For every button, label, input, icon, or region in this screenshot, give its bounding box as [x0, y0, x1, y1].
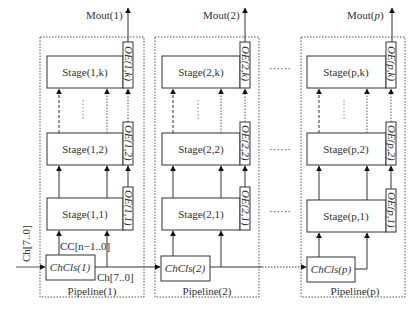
oe-1-k-label: OE(1,k)	[122, 46, 135, 81]
oe-p-1-label: OE(p,1)	[385, 192, 398, 228]
horizontal-ellipsis-2: ······	[269, 143, 291, 155]
pipeline-1: Mout(1) Stage(1,k) OE(1,k) Stage(1,2) OE…	[40, 8, 150, 298]
chcls-1-label: ChCls(1)	[50, 261, 91, 274]
horizontal-ellipsis-1: ······	[269, 205, 291, 217]
chcls-p-label: ChCls(p)	[311, 263, 352, 276]
input-label: Ch[7..0]	[20, 225, 32, 262]
mout-1-label: Mout(1)	[86, 9, 123, 22]
cc-label: CC[n−1..0]	[60, 240, 110, 252]
oe-p-k-label: OE(p,k)	[385, 46, 398, 81]
mout-2-label: Mout(2)	[203, 9, 240, 22]
oe-2-1-label: OE(2,1)	[239, 190, 252, 226]
stage-1-k-label: Stage(1,k)	[62, 66, 108, 79]
stage-p-1-label: Stage(p,1)	[323, 210, 369, 223]
pipeline-2-title: Pipeline(2)	[183, 285, 232, 298]
pipeline-1-title: Pipeline(1)	[68, 285, 117, 298]
stage-2-1-label: Stage(2,1)	[178, 208, 224, 221]
oe-2-2-label: OE(2,2)	[239, 125, 252, 161]
pipeline-p-title: Pipeline(p)	[331, 285, 380, 298]
oe-1-2-label: OE(1,2)	[122, 125, 135, 161]
oe-1-1-label: OE(1,1)	[122, 190, 135, 226]
stage-2-k-label: Stage(2,k)	[178, 66, 224, 79]
mout-p-label: Mout(p)	[347, 9, 384, 22]
stage-p-k-label: Stage(p,k)	[323, 66, 369, 79]
oe-p-2-label: OE(p,2)	[385, 125, 398, 161]
pipeline-architecture-diagram: Ch[7..0] Mout(1) Stage(1,k) OE(1,k) Stag…	[0, 0, 419, 316]
horizontal-ellipsis-k: ······	[269, 62, 291, 74]
mout-p-var: p	[374, 9, 381, 21]
pipeline-p: Mout(p) Stage(p,k) OE(p,k) Stage(p,2) OE…	[301, 8, 405, 298]
ch-out-label: Ch[7..0]	[97, 271, 134, 283]
oe-2-k-label: OE(2,k)	[239, 46, 252, 81]
ch-link	[355, 233, 367, 269]
chcls-2-label: ChCls(2)	[165, 262, 206, 275]
stage-1-1-label: Stage(1,1)	[62, 208, 108, 221]
stage-p-2-label: Stage(p,2)	[323, 143, 369, 156]
stage-2-2-label: Stage(2,2)	[178, 143, 224, 156]
stage-1-2-label: Stage(1,2)	[62, 143, 108, 156]
